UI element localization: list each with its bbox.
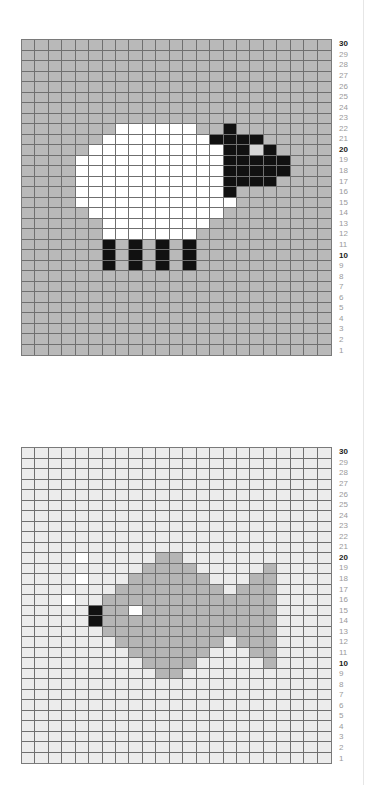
grid-cell <box>129 72 142 83</box>
grid-cell <box>89 51 102 62</box>
grid-cell <box>76 40 89 51</box>
grid-cell <box>89 240 102 251</box>
grid-cell <box>76 553 89 564</box>
grid-cell <box>76 501 89 512</box>
grid-cell <box>35 208 48 219</box>
grid-cell <box>224 72 237 83</box>
grid-cell <box>318 124 331 135</box>
grid-cell <box>76 345 89 356</box>
grid-cell <box>170 669 183 680</box>
grid-cell <box>250 448 263 459</box>
grid-cell <box>49 271 62 282</box>
grid-cell <box>22 187 35 198</box>
grid-cell <box>210 553 223 564</box>
grid-cell <box>210 334 223 345</box>
grid-cell <box>291 585 304 596</box>
grid-cell <box>224 658 237 669</box>
grid-cell <box>170 700 183 711</box>
grid-cell <box>35 574 48 585</box>
grid-cell <box>318 82 331 93</box>
grid-cell <box>62 511 75 522</box>
grid-cell <box>156 82 169 93</box>
grid-cell <box>183 490 196 501</box>
grid-cell <box>224 324 237 335</box>
grid-cell <box>35 637 48 648</box>
row-label: 5 <box>339 711 359 722</box>
grid-cell <box>156 61 169 72</box>
grid-cell <box>210 61 223 72</box>
grid-cell <box>210 103 223 114</box>
grid-cell <box>22 145 35 156</box>
grid-cell <box>143 448 156 459</box>
grid-cell <box>304 522 317 533</box>
grid-cell <box>156 553 169 564</box>
grid-cell <box>116 522 129 533</box>
grid-cell <box>156 459 169 470</box>
grid-cell <box>49 627 62 638</box>
grid-cell <box>237 627 250 638</box>
grid-cell <box>35 711 48 722</box>
grid-cell <box>89 627 102 638</box>
grid-cell <box>224 51 237 62</box>
grid-cell <box>304 103 317 114</box>
grid-cell <box>318 574 331 585</box>
grid-cell <box>62 345 75 356</box>
grid-cell <box>170 721 183 732</box>
grid-cell <box>318 690 331 701</box>
grid-cell <box>291 82 304 93</box>
grid-cell <box>76 198 89 209</box>
grid-cell <box>237 532 250 543</box>
grid-cell <box>49 198 62 209</box>
grid-cell <box>49 637 62 648</box>
grid-cell <box>156 711 169 722</box>
grid-cell <box>318 501 331 512</box>
grid-cell <box>264 61 277 72</box>
grid-cell <box>291 313 304 324</box>
grid-cell <box>116 669 129 680</box>
grid-cell <box>291 732 304 743</box>
grid-cell <box>224 135 237 146</box>
grid-cell <box>277 522 290 533</box>
grid-cell <box>304 543 317 554</box>
grid-cell <box>22 616 35 627</box>
grid-cell <box>197 166 210 177</box>
grid-cell <box>291 679 304 690</box>
fish-chart: 3029282726252423222120191817161514131211… <box>21 447 332 764</box>
grid-cell <box>62 469 75 480</box>
grid-cell <box>49 459 62 470</box>
grid-cell <box>49 345 62 356</box>
grid-cell <box>129 114 142 125</box>
grid-cell <box>49 648 62 659</box>
grid-cell <box>183 732 196 743</box>
row-label: 13 <box>339 219 359 230</box>
grid-cell <box>197 72 210 83</box>
grid-cell <box>197 616 210 627</box>
grid-cell <box>224 532 237 543</box>
row-label: 2 <box>339 335 359 346</box>
grid-cell <box>156 585 169 596</box>
grid-cell <box>62 271 75 282</box>
grid-cell <box>89 345 102 356</box>
grid-cell <box>116 40 129 51</box>
grid-cell <box>49 532 62 543</box>
grid-cell <box>62 103 75 114</box>
grid-cell <box>129 208 142 219</box>
grid-cell <box>129 198 142 209</box>
grid-cell <box>264 271 277 282</box>
row-label: 9 <box>339 261 359 272</box>
grid-cell <box>291 490 304 501</box>
grid-cell <box>210 124 223 135</box>
grid-cell <box>224 742 237 753</box>
row-label: 2 <box>339 743 359 754</box>
grid-cell <box>197 187 210 198</box>
grid-cell <box>143 532 156 543</box>
grid-cell <box>224 606 237 617</box>
grid-cell <box>291 40 304 51</box>
grid-cell <box>62 585 75 596</box>
grid-cell <box>277 271 290 282</box>
grid-cell <box>156 469 169 480</box>
grid-cell <box>143 166 156 177</box>
grid-cell <box>237 511 250 522</box>
grid-cell <box>291 690 304 701</box>
grid-cell <box>22 700 35 711</box>
